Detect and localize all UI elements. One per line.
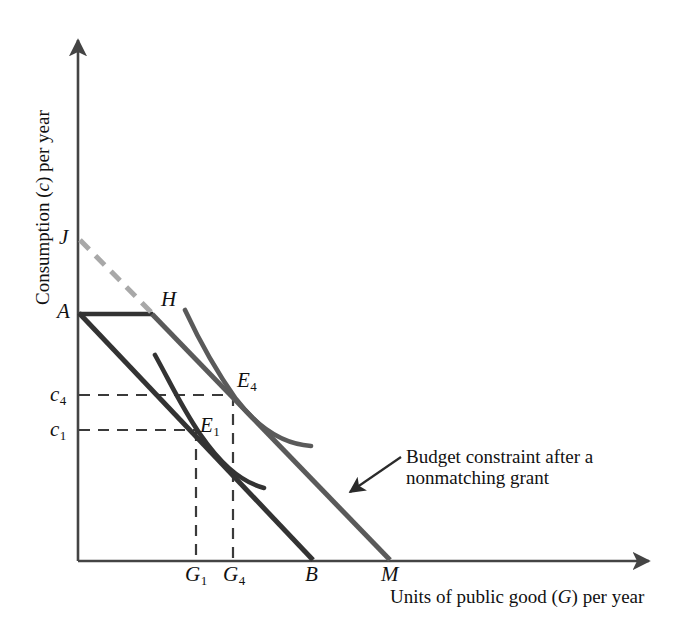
x-axis-title-text-symbol: G [558,586,572,607]
point-label-B: B [305,563,318,587]
axis-tick-label-c4: c4 [50,383,66,408]
axis-tick-label-c4-subscript: 4 [59,393,66,408]
point-label-H: H [161,288,176,312]
axis-tick-label-G1-base: G [185,562,200,586]
point-label-E1-subscript: 1 [213,424,220,439]
y-axis-title-text: Consumption (c) per year [32,110,53,305]
y-axis-title-text-symbol: c [32,183,53,191]
budget-line-nonmatching-dashed-JH [80,240,153,314]
figure-container: Consumption (c) per year Units of public… [0,0,683,632]
axis-tick-label-G1: G1 [185,563,207,588]
axis-tick-label-c1-base: c [50,417,59,441]
point-label-E4-subscript: 4 [250,379,257,394]
point-label-E4: E4 [237,369,257,394]
diagram-canvas [0,0,683,632]
point-label-E4-base: E [237,368,250,392]
axis-tick-label-G4-subscript: 4 [238,573,245,588]
x-axis-title-text: Units of public good (G) per year [390,586,644,607]
point-label-E1-base: E [200,413,213,437]
y-axis-title: Consumption (c) per year [32,110,53,305]
axis-tick-label-c1: c1 [50,418,66,443]
axis-tick-label-c4-base: c [50,382,59,406]
point-label-E1: E1 [200,414,220,439]
axis-tick-label-G1-subscript: 1 [200,573,207,588]
annotation-line-1: Budget constraint after a [406,446,593,467]
point-label-A: A [57,300,70,324]
axis-tick-label-G4-base: G [223,562,238,586]
annotation-arrow [350,457,401,492]
annotation-line-2: nonmatching grant [406,467,593,488]
point-label-J: J [59,226,68,250]
budget-line-nonmatching-HM [152,314,390,560]
axis-tick-label-G4: G4 [223,563,245,588]
point-label-M: M [381,563,399,587]
annotation-budget-constraint: Budget constraint after a nonmatching gr… [406,446,593,489]
axis-tick-label-c1-subscript: 1 [59,428,66,443]
x-axis-title: Units of public good (G) per year [390,586,644,607]
